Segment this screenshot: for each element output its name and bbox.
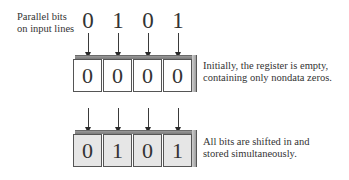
down-arrow-icon: [118, 33, 119, 57]
input-bit-2: 0: [138, 9, 158, 32]
register-cell: 1: [163, 134, 192, 167]
register-cell: 0: [73, 134, 102, 167]
register-cell: 0: [163, 59, 192, 92]
input-label-line2: on input lines: [17, 23, 74, 35]
input-bit-0: 0: [78, 9, 98, 32]
initial-caption-line2: containing only nondata zeros.: [203, 72, 332, 84]
register-cell: 0: [133, 134, 162, 167]
initial-register: 0 0 0 0: [73, 55, 197, 93]
final-caption-line2: stored simultaneously.: [203, 148, 309, 160]
down-arrow-icon: [88, 33, 89, 57]
register-side-face: [192, 130, 197, 167]
register-cell: 0: [133, 59, 162, 92]
initial-caption: Initially, the register is empty, contai…: [203, 60, 332, 83]
down-arrow-icon: [178, 108, 179, 132]
down-arrow-icon: [148, 108, 149, 132]
final-register: 0 1 0 1: [73, 130, 197, 168]
down-arrow-icon: [148, 33, 149, 57]
input-bit-3: 1: [168, 9, 188, 32]
input-label-line1: Parallel bits: [17, 11, 74, 23]
register-cell: 1: [103, 134, 132, 167]
down-arrow-icon: [118, 108, 119, 132]
input-lines-label: Parallel bits on input lines: [17, 11, 74, 34]
register-cell: 0: [103, 59, 132, 92]
input-bit-1: 1: [108, 9, 128, 32]
down-arrow-icon: [88, 108, 89, 132]
final-caption-line1: All bits are shifted in and: [203, 136, 309, 148]
down-arrow-icon: [178, 33, 179, 57]
register-cell: 0: [73, 59, 102, 92]
register-side-face: [192, 55, 197, 92]
final-caption: All bits are shifted in and stored simul…: [203, 136, 309, 159]
initial-caption-line1: Initially, the register is empty,: [203, 60, 332, 72]
